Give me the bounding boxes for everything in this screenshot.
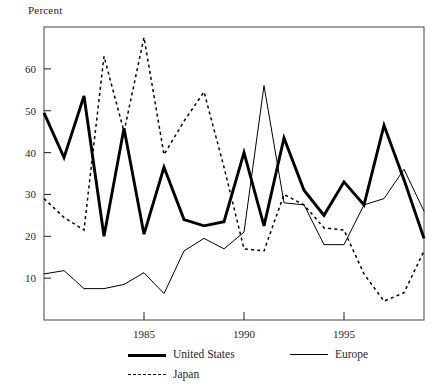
line-swatch-thin	[290, 349, 328, 359]
y-tick-label: 10	[25, 272, 37, 284]
line-swatch-thick	[128, 349, 166, 359]
legend-item-united-states: United States	[128, 348, 235, 360]
series-line-japan	[44, 37, 424, 301]
line-chart: 102030405060198519901995	[0, 0, 439, 340]
legend-label-europe: Europe	[335, 348, 368, 360]
y-tick-label: 60	[25, 63, 37, 75]
plot-frame	[44, 27, 424, 320]
legend-item-japan: Japan	[128, 368, 199, 380]
series-line-united-states	[44, 96, 424, 238]
x-tick-label: 1995	[333, 328, 356, 340]
chart-figure: Percent 102030405060198519901995 United …	[0, 0, 439, 390]
legend-item-europe: Europe	[290, 348, 368, 360]
x-tick-label: 1985	[133, 328, 156, 340]
x-tick-label: 1990	[233, 328, 256, 340]
legend-label-japan: Japan	[173, 368, 199, 380]
y-tick-label: 50	[25, 105, 37, 117]
y-tick-label: 40	[25, 147, 37, 159]
line-swatch-dashed	[128, 369, 166, 379]
chart-legend: United States Europe Japan	[0, 348, 439, 390]
y-tick-label: 20	[25, 230, 37, 242]
legend-label-united-states: United States	[173, 348, 235, 360]
y-tick-label: 30	[25, 188, 37, 200]
plot-area: 102030405060198519901995	[0, 0, 439, 340]
